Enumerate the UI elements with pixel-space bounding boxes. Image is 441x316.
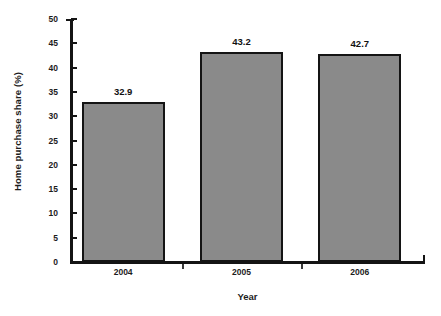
x-axis-category-label: 2006	[318, 268, 401, 277]
y-axis-tick-label: 20	[32, 161, 58, 170]
y-axis-tick-label: 15	[32, 185, 58, 194]
y-axis-tick-label: 50	[32, 15, 58, 24]
y-axis-tick-label: 10	[32, 209, 58, 218]
bar-chart: Home purchase share (%) 0510152025303540…	[0, 0, 441, 316]
y-axis-tick-label: 25	[32, 137, 58, 146]
bar-value-label: 43.2	[200, 37, 283, 47]
x-axis-title: Year	[70, 291, 425, 302]
bar-value-label: 42.7	[318, 39, 401, 49]
x-axis-category-label: 2004	[82, 268, 165, 277]
y-axis-tick-label: 5	[32, 234, 58, 243]
bar-value-label: 32.9	[82, 87, 165, 97]
y-axis-tick-label: 30	[32, 112, 58, 121]
bar	[318, 54, 401, 262]
y-axis-tick-label: 40	[32, 64, 58, 73]
y-axis-tick-label: 35	[32, 88, 58, 97]
x-axis-category-label: 2005	[200, 268, 283, 277]
y-axis-tick-label: 0	[32, 258, 58, 267]
x-axis-tick-mark	[182, 264, 184, 269]
bar	[82, 102, 165, 262]
y-axis-title-text: Home purchase share (%)	[12, 72, 23, 191]
y-axis-tick-label: 45	[32, 39, 58, 48]
bars-layer: 32.943.242.7	[70, 19, 425, 262]
y-axis-title: Home purchase share (%)	[6, 0, 28, 262]
x-axis-tick-mark	[301, 264, 303, 269]
bar	[200, 52, 283, 262]
